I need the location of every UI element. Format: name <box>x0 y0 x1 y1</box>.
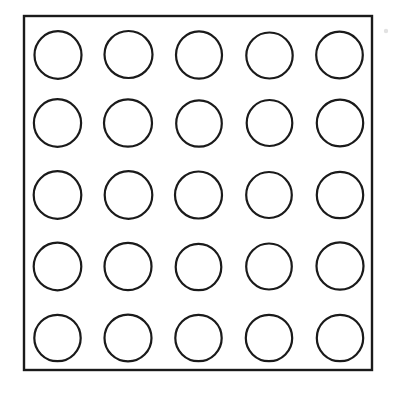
grid-circle-r3c5 <box>317 172 363 218</box>
grid-circle-r4c1 <box>34 243 82 291</box>
grid-circle-r5c3 <box>175 315 221 361</box>
grid-circle-r5c4 <box>246 315 292 361</box>
grid-circle-r2c5 <box>317 100 363 147</box>
grid-circle-r1c4 <box>246 33 292 79</box>
grid-circle-r3c1 <box>34 171 82 219</box>
grid-circle-r5c5 <box>317 315 363 361</box>
grid-circle-r1c5 <box>316 32 363 79</box>
grid-circle-r4c2 <box>105 243 152 290</box>
grid-circle-r5c2 <box>105 315 152 362</box>
grid-circle-r3c3 <box>175 172 222 219</box>
grid-circle-r1c3 <box>176 31 222 78</box>
grid-circle-r3c4 <box>246 172 292 218</box>
grid-circle-r2c1 <box>34 99 81 147</box>
grid-circle-r2c2 <box>104 99 152 146</box>
circle-grid-diagram <box>0 0 396 394</box>
grid-circle-r4c3 <box>176 244 222 290</box>
grid-circle-r4c5 <box>317 242 364 289</box>
grid-circle-r2c4 <box>247 100 293 146</box>
grid-circle-r4c4 <box>246 244 292 290</box>
scan-speck <box>384 29 388 33</box>
scan-artifact-layer <box>384 29 388 33</box>
grid-circle-r5c1 <box>34 315 80 361</box>
grid-circle-r3c2 <box>105 171 153 219</box>
figure-canvas: A hand-drawn square outline containing a… <box>0 0 396 394</box>
grid-circle-r1c2 <box>105 31 153 78</box>
grid-circle-r1c1 <box>35 31 82 79</box>
grid-circle-r2c3 <box>176 100 222 146</box>
